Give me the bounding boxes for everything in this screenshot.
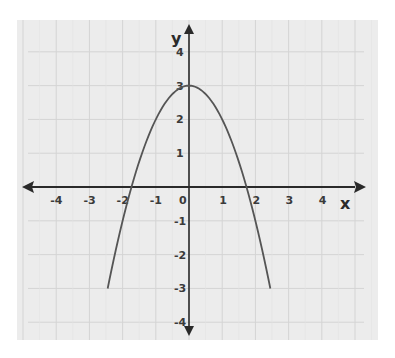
- y-tick-label: -2: [174, 249, 186, 262]
- y-tick-label: -1: [174, 215, 186, 228]
- x-tick-label: 0: [179, 194, 187, 207]
- x-tick-label: 3: [286, 194, 294, 207]
- x-tick-label: -3: [83, 194, 95, 207]
- y-tick-label: 1: [176, 147, 184, 160]
- y-tick-label: -3: [174, 282, 186, 295]
- y-axis-label: y: [171, 29, 182, 48]
- y-tick-label: -4: [174, 316, 187, 329]
- x-tick-label: 2: [252, 194, 260, 207]
- x-tick-label: 1: [219, 194, 227, 207]
- y-tick-label: 2: [176, 113, 184, 126]
- x-tick-label: -1: [150, 194, 162, 207]
- grid-background: [17, 20, 378, 340]
- coordinate-plane: -4-3-2-101234 4321-1-2-3-4 x y: [0, 0, 395, 358]
- x-tick-label: -4: [50, 194, 63, 207]
- x-axis-label: x: [340, 194, 351, 213]
- x-tick-label: 4: [319, 194, 327, 207]
